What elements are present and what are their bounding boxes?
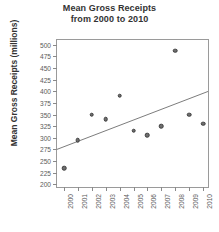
- x-axis-tick: [120, 187, 121, 191]
- data-point: [159, 124, 164, 129]
- y-axis-tick-label: 400: [40, 88, 51, 95]
- y-axis-tick: [53, 68, 57, 69]
- x-axis-tick: [161, 187, 162, 191]
- y-axis-tick-label: 425: [40, 76, 51, 83]
- x-axis-tick-label: 2006: [150, 194, 157, 209]
- y-axis-label: Mean Gross Receipts (millions): [9, 8, 19, 158]
- x-axis-tick: [134, 187, 135, 191]
- y-axis-tick-label: 450: [40, 64, 51, 71]
- y-axis-tick: [53, 115, 57, 116]
- chart-figure: Mean Gross Receipts from 2000 to 2010 Me…: [0, 0, 219, 232]
- data-point: [117, 94, 122, 99]
- y-axis-tick: [53, 184, 57, 185]
- data-point: [145, 133, 150, 138]
- x-axis-tick-label: 2003: [109, 194, 116, 209]
- data-point: [187, 112, 192, 117]
- y-axis-tick: [53, 56, 57, 57]
- x-axis-tick: [189, 187, 190, 191]
- x-axis-tick-label: 2004: [123, 194, 130, 209]
- data-points: [57, 40, 208, 187]
- data-point: [173, 48, 178, 53]
- data-point: [201, 122, 206, 127]
- x-axis-tick: [78, 187, 79, 191]
- chart-title-line-2: from 2000 to 2010: [0, 14, 219, 25]
- y-axis-tick-label: 500: [40, 41, 51, 48]
- y-axis-tick: [53, 103, 57, 104]
- x-axis-tick: [175, 187, 176, 191]
- x-axis-tick: [106, 187, 107, 191]
- x-axis-tick-label: 2002: [95, 194, 102, 209]
- plot-area: 2002252502753003253503754004254504755002…: [56, 39, 209, 188]
- y-axis-tick-label: 250: [40, 158, 51, 165]
- y-axis-tick: [53, 126, 57, 127]
- data-point: [103, 117, 108, 122]
- x-axis-tick: [147, 187, 148, 191]
- data-point: [89, 112, 94, 117]
- y-axis-tick-label: 350: [40, 111, 51, 118]
- data-point: [131, 129, 136, 134]
- x-axis-tick-label: 2000: [67, 194, 74, 209]
- y-axis-tick-label: 275: [40, 146, 51, 153]
- y-axis-tick: [53, 149, 57, 150]
- y-axis-tick: [53, 45, 57, 46]
- x-axis-tick-label: 2005: [137, 194, 144, 209]
- y-axis-tick: [53, 173, 57, 174]
- y-axis-tick: [53, 138, 57, 139]
- y-axis-tick-label: 300: [40, 134, 51, 141]
- chart-title: Mean Gross Receipts from 2000 to 2010: [0, 3, 219, 25]
- x-axis-tick: [203, 187, 204, 191]
- x-axis-tick-label: 2009: [192, 194, 199, 209]
- y-axis-tick-label: 325: [40, 123, 51, 130]
- x-axis-tick-label: 2008: [178, 194, 185, 209]
- x-axis-tick: [64, 187, 65, 191]
- data-point: [76, 138, 81, 143]
- x-axis-tick: [92, 187, 93, 191]
- y-axis-tick: [53, 80, 57, 81]
- chart-title-line-1: Mean Gross Receipts: [0, 3, 219, 14]
- x-axis-tick-label: 2007: [164, 194, 171, 209]
- y-axis-tick-label: 475: [40, 53, 51, 60]
- y-axis-tick-label: 225: [40, 169, 51, 176]
- y-axis-tick-label: 375: [40, 99, 51, 106]
- y-axis-tick: [53, 91, 57, 92]
- y-axis-tick: [53, 161, 57, 162]
- data-point: [62, 166, 67, 171]
- x-axis-tick-label: 2010: [206, 194, 213, 209]
- x-axis-tick-label: 2001: [81, 194, 88, 209]
- y-axis-tick-label: 200: [40, 181, 51, 188]
